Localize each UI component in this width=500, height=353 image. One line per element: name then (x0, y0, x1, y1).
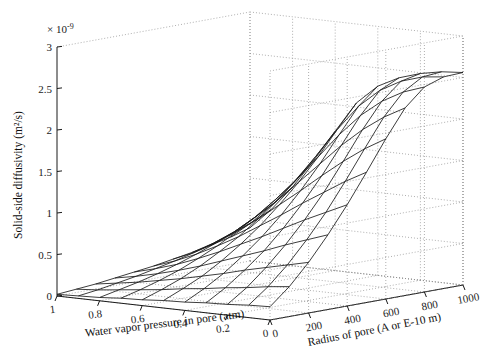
z-tick-label: 0 (47, 290, 53, 302)
surface-mesh (57, 72, 463, 307)
y-tick-label: 0 (271, 327, 279, 340)
y-tick-label: 400 (343, 312, 362, 327)
z-axis-title: Solid-side diffusivity (m²/s) (12, 111, 25, 239)
z-tick-label: 1 (47, 207, 53, 219)
z-tick-label: 3 (47, 41, 53, 53)
z-tick-label: 0.5 (38, 249, 52, 261)
plot-canvas: 00.511.522.5310.80.60.40.200200400600800… (0, 0, 500, 353)
y-axis-title: Radius of pore (A or E-10 m) (307, 310, 443, 349)
wall-gridlines (250, 12, 463, 320)
x-tick-label: 0 (262, 327, 269, 340)
z-tick-label: 1.5 (38, 166, 52, 178)
x-tick-label: 0.2 (215, 321, 230, 335)
x-tick-label: 0.8 (88, 307, 104, 321)
axis-ticks-and-labels: 00.511.522.5310.80.60.40.200200400600800… (12, 22, 481, 349)
surface-plot-figure: 00.511.522.5310.80.60.40.200200400600800… (0, 0, 500, 353)
z-tick-label: 2.5 (38, 83, 52, 95)
x-tick-label: 1 (49, 303, 56, 316)
z-tick-label: 2 (47, 124, 53, 136)
y-tick-label: 600 (382, 305, 401, 320)
y-tick-label: 1000 (456, 290, 480, 306)
z-axis-exponent-label: × 10-9 (47, 22, 74, 35)
y-tick-label: 200 (305, 319, 324, 334)
